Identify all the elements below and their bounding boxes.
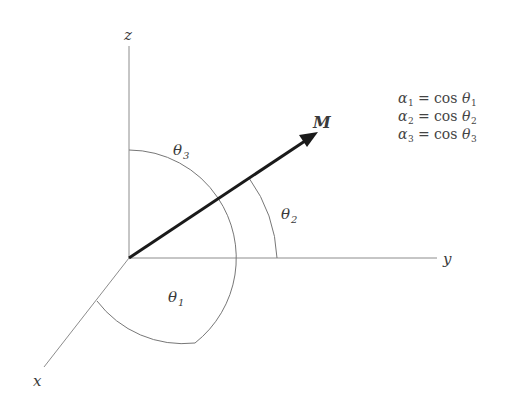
svg-text:=: =: [418, 108, 430, 124]
equation-3: α 3 = cos θ 3: [398, 126, 477, 144]
svg-text:1: 1: [471, 98, 477, 108]
svg-text:α: α: [398, 108, 408, 124]
svg-text:θ: θ: [281, 205, 290, 223]
svg-text:2: 2: [408, 116, 414, 126]
svg-text:1: 1: [178, 297, 184, 308]
x-axis: [44, 258, 129, 367]
z-axis-label: z: [123, 26, 132, 44]
theta1-label: θ 1: [168, 288, 184, 308]
x-axis-label: x: [33, 372, 42, 390]
y-axis-label: y: [442, 250, 452, 268]
svg-text:cos: cos: [434, 90, 457, 106]
svg-text:2: 2: [471, 116, 477, 126]
theta1-arc-upper: [195, 198, 236, 343]
svg-text:=: =: [418, 126, 430, 142]
theta2-label: θ 2: [281, 205, 297, 225]
svg-text:θ: θ: [173, 141, 182, 159]
equation-2: α 2 = cos θ 2: [398, 108, 477, 126]
svg-text:θ: θ: [462, 126, 471, 142]
theta3-label: θ 3: [173, 141, 189, 161]
vector-m-label: M: [312, 113, 332, 132]
equation-1: α 1 = cos θ 1: [398, 90, 477, 108]
vector-m-line: [129, 139, 308, 258]
svg-text:3: 3: [183, 150, 189, 161]
svg-text:3: 3: [471, 134, 477, 144]
svg-text:α: α: [398, 90, 408, 106]
svg-text:α: α: [398, 126, 408, 142]
svg-text:3: 3: [408, 134, 414, 144]
svg-text:cos: cos: [434, 126, 457, 142]
svg-text:=: =: [418, 90, 430, 106]
svg-text:θ: θ: [462, 108, 471, 124]
direction-cosines-diagram: z y x M θ 3 θ 2 θ 1 α 1 = cos θ 1 α 2 = …: [0, 0, 523, 406]
svg-text:θ: θ: [462, 90, 471, 106]
svg-text:1: 1: [408, 98, 414, 108]
svg-text:θ: θ: [168, 288, 177, 306]
svg-text:cos: cos: [434, 108, 457, 124]
theta2-arc: [249, 178, 277, 258]
svg-text:2: 2: [290, 214, 297, 225]
